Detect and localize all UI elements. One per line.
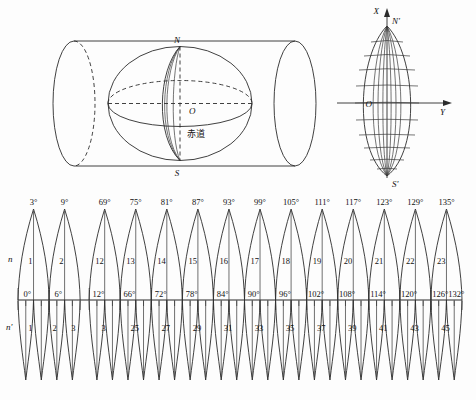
upper-zone-central-meridian: 81° (161, 197, 173, 207)
lower-zone-number: 31 (224, 323, 233, 333)
lower-zone[interactable] (384, 300, 400, 380)
lower-zone[interactable] (338, 300, 354, 380)
axis-degree-label: 96° (279, 289, 291, 299)
lower-zone-number: 39 (348, 323, 357, 333)
axis-tick-marks (18, 301, 462, 310)
lower-zone[interactable] (198, 300, 214, 380)
upper-zone-central-meridian: 129° (407, 197, 423, 207)
lower-zone-number: 1 (28, 323, 32, 333)
lower-zone[interactable] (65, 300, 81, 380)
lower-zone[interactable] (307, 300, 323, 380)
lower-zone-number: 3 (102, 323, 106, 333)
lower-zone[interactable] (260, 300, 276, 380)
axis-degree-label: 108° (339, 289, 355, 299)
axis-degree-label: 6° (55, 289, 63, 299)
upper-zone-number: 15 (188, 256, 197, 266)
lower-zone[interactable] (245, 300, 261, 380)
lower-zone[interactable] (400, 300, 416, 380)
gore-north-pole-label: N' (391, 16, 401, 26)
lower-zone-strip: 12325272931333537394143453 (18, 300, 462, 380)
axis-degree-label: 120° (401, 289, 417, 299)
lower-zone-number: 35 (286, 323, 295, 333)
lower-zone[interactable] (18, 300, 34, 380)
upper-zone-central-meridian: 111° (314, 197, 330, 207)
lower-zone[interactable] (151, 300, 167, 380)
axis-degree-label: 126° (432, 289, 448, 299)
upper-zone[interactable]: 81°14 (151, 197, 182, 300)
upper-zone-central-meridian: 69° (99, 197, 111, 207)
upper-zone[interactable]: 117°20 (338, 197, 369, 300)
upper-zone-central-meridian: 3° (30, 197, 38, 207)
upper-zone[interactable]: 111°19 (307, 197, 338, 300)
figure-root: N S O 赤道 X Y N' S' O (0, 0, 476, 400)
lower-zone[interactable] (446, 300, 462, 380)
lower-zone[interactable] (182, 300, 198, 380)
upper-zone[interactable]: 99°17 (245, 197, 276, 300)
upper-zone-central-meridian: 123° (376, 197, 392, 207)
lower-zone-number: 41 (379, 323, 388, 333)
upper-row-label: n (8, 254, 13, 264)
axis-degree-label: 114° (370, 289, 386, 299)
lower-zone[interactable] (136, 300, 152, 380)
lower-zone[interactable] (49, 300, 65, 380)
sphere (108, 47, 252, 161)
lower-zone-number: 37 (317, 323, 326, 333)
upper-zone-central-meridian: 99° (254, 197, 266, 207)
lower-zone[interactable] (291, 300, 307, 380)
upper-zone-number: 17 (251, 256, 260, 266)
upper-zone[interactable]: 3°1 (18, 197, 49, 300)
upper-zone-strip: 3°19°269°1275°1381°1487°1593°1699°17105°… (18, 197, 462, 300)
gore-axis-x-label: X (373, 6, 380, 16)
lower-zone[interactable] (89, 300, 105, 380)
upper-zone[interactable]: 69°12 (89, 197, 120, 300)
upper-zone[interactable]: 129°22 (400, 197, 431, 300)
upper-zone-central-meridian: 87° (192, 197, 204, 207)
lower-zone-number: 25 (131, 323, 140, 333)
upper-zone[interactable]: 105°18 (276, 197, 307, 300)
upper-zone-number: 1 (28, 256, 32, 266)
upper-zone-central-meridian: 9° (61, 197, 69, 207)
axis-degree-label: 102° (308, 289, 324, 299)
lower-zone-number: 45 (441, 323, 450, 333)
upper-zone-number: 13 (126, 256, 135, 266)
upper-zone[interactable]: 93°16 (213, 197, 244, 300)
lower-zone[interactable] (431, 300, 447, 380)
upper-zone-number: 23 (437, 256, 446, 266)
gore-origin-label: O (366, 99, 373, 109)
upper-zone-number: 21 (375, 256, 384, 266)
lower-zone[interactable] (167, 300, 183, 380)
upper-zone-number: 16 (219, 256, 228, 266)
upper-zone-number: 18 (282, 256, 291, 266)
lower-zone[interactable] (229, 300, 245, 380)
lower-zone[interactable] (213, 300, 229, 380)
upper-zone[interactable]: 75°13 (120, 197, 151, 300)
equator-label: 赤道 (187, 128, 205, 139)
lower-zone[interactable] (415, 300, 431, 380)
upper-zone[interactable]: 135°23 (431, 197, 462, 300)
lower-zone-number: 29 (193, 323, 202, 333)
lower-zone[interactable] (34, 300, 50, 380)
upper-zone[interactable]: 87°15 (182, 197, 213, 300)
globe-center-label: O (189, 106, 196, 116)
gore-south-pole-label: S' (392, 179, 400, 189)
axis-degree-label: 84° (217, 289, 229, 299)
lower-zone[interactable] (322, 300, 338, 380)
axis-degree-label: 12° (93, 289, 105, 299)
globe-south-pole-label: S (175, 168, 180, 178)
lower-zone[interactable] (120, 300, 136, 380)
lower-zone[interactable] (276, 300, 292, 380)
gore-axis-y-label: Y (440, 107, 446, 117)
upper-zone[interactable]: 9°2 (49, 197, 80, 300)
upper-zone-central-meridian: 93° (223, 197, 235, 207)
lower-zone[interactable] (105, 300, 121, 380)
upper-zone-central-meridian: 75° (130, 197, 142, 207)
axis-degree-label: 90° (248, 289, 260, 299)
upper-zone[interactable]: 123°21 (369, 197, 400, 300)
axis-degree-label: 0° (23, 289, 31, 299)
globe-north-pole-label: N (173, 35, 181, 45)
lower-zone[interactable] (369, 300, 385, 380)
upper-zone-number: 12 (95, 256, 104, 266)
axis-degree-label: 132° (448, 289, 464, 299)
axis-degree-label: 66° (124, 289, 136, 299)
lower-zone[interactable] (353, 300, 369, 380)
